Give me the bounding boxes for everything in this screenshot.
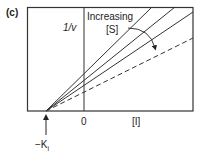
x-axis-label: [I] [132,116,141,127]
y-axis-label: 1/v [63,22,77,33]
line-1 [46,7,152,111]
lineweaver-burk-diagram: (c) 1/v Increasing [S] 0 [I] −Ki [0,0,201,158]
panel-label: (c) [6,7,18,18]
ki-subscript: i [48,145,50,152]
ki-label: −Ki [35,139,50,152]
annotation-line1: Increasing [87,11,133,22]
annotation-line2: [S] [106,24,118,35]
increasing-s-arrow-icon [128,28,155,48]
dashed-line-no-substrate [46,38,193,111]
origin-label: 0 [81,116,87,127]
